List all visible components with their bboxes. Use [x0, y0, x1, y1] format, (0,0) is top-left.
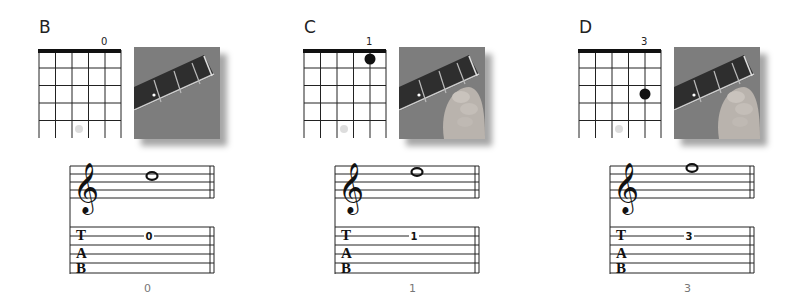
treble-clef-icon: 𝄞 — [338, 161, 364, 215]
svg-text:T: T — [341, 227, 351, 243]
note-panel-b: B 0 — [0, 0, 260, 308]
fretboard-diagram — [35, 46, 135, 146]
music-staff: 𝄞 T A B 0 — [66, 160, 226, 295]
hand-position-photo — [674, 47, 760, 139]
svg-text:A: A — [76, 245, 87, 261]
note-panel-c: C 1 — [265, 0, 525, 308]
note-name: B — [39, 17, 51, 37]
whole-note — [412, 168, 423, 176]
svg-text:B: B — [76, 260, 86, 276]
fret-caption: 3 — [684, 282, 691, 295]
fretboard-diagram — [575, 46, 675, 146]
svg-text:A: A — [341, 245, 352, 261]
fret-caption: 1 — [409, 282, 416, 295]
finger-dot — [640, 89, 651, 100]
whole-note — [687, 164, 698, 172]
svg-text:T: T — [616, 227, 626, 243]
whole-note — [147, 172, 158, 180]
tab-fret-number: 0 — [146, 231, 153, 242]
note-name: D — [579, 17, 592, 37]
hand-position-photo — [399, 47, 485, 139]
tab-fret-number: 1 — [411, 231, 418, 242]
treble-clef-icon: 𝄞 — [73, 161, 99, 215]
treble-clef-icon: 𝄞 — [613, 161, 639, 215]
finger-dot — [365, 54, 376, 65]
music-staff: 𝄞 T A B 3 — [606, 160, 766, 295]
svg-text:B: B — [616, 260, 626, 276]
fret-caption: 0 — [144, 282, 151, 295]
tab-fret-number: 3 — [686, 231, 693, 242]
svg-text:B: B — [341, 260, 351, 276]
fretboard-diagram — [300, 46, 400, 146]
svg-text:T: T — [76, 227, 86, 243]
svg-text:A: A — [616, 245, 627, 261]
note-panel-d: D 3 — [540, 0, 797, 308]
music-staff: 𝄞 T A B 1 — [331, 160, 491, 295]
note-name: C — [304, 17, 316, 37]
hand-position-photo — [134, 47, 220, 139]
